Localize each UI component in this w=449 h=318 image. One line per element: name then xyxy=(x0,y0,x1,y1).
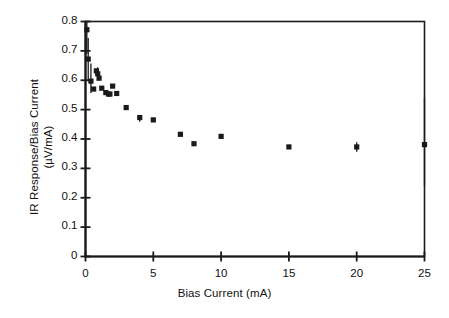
y-axis-title-line2: (µV/mA) xyxy=(42,22,54,272)
data-point xyxy=(96,76,101,81)
x-tick-label: 25 xyxy=(400,267,449,279)
plot-frame xyxy=(86,22,425,257)
data-point xyxy=(286,144,291,149)
y-axis-title: IR Response/Bias Current (µV/mA) xyxy=(24,22,54,272)
x-tick-label: 10 xyxy=(196,267,246,279)
x-axis-title: Bias Current (mA) xyxy=(0,283,449,301)
x-tick-label: 5 xyxy=(128,267,178,279)
data-point xyxy=(88,79,93,84)
data-point xyxy=(124,105,129,110)
data-point xyxy=(191,141,196,146)
data-point xyxy=(86,57,91,62)
chart-figure: 00.10.20.30.40.50.60.70.8 0510152025 Bia… xyxy=(0,0,449,318)
data-point xyxy=(84,27,89,32)
data-point xyxy=(151,117,156,122)
y-axis-title-line1: IR Response/Bias Current xyxy=(28,79,40,215)
data-point xyxy=(178,132,183,137)
data-point xyxy=(114,91,119,96)
x-tick-label: 15 xyxy=(264,267,314,279)
data-point xyxy=(107,91,112,96)
x-tick-label: 0 xyxy=(61,267,111,279)
data-point xyxy=(219,134,224,139)
error-bars xyxy=(87,22,425,186)
data-point xyxy=(354,144,359,149)
data-point xyxy=(137,115,142,120)
x-tick-label: 20 xyxy=(332,267,382,279)
data-point xyxy=(110,84,115,89)
data-point xyxy=(91,86,96,91)
x-axis-title-text: Bias Current (mA) xyxy=(178,287,272,299)
data-points xyxy=(84,27,427,149)
data-point xyxy=(422,142,427,147)
